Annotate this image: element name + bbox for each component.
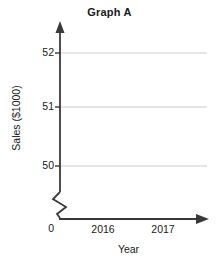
gridlines (60, 53, 207, 166)
y-tick-52: 52 (24, 46, 54, 60)
axis-break-icon (53, 192, 66, 218)
x-tick-2016: 2016 (80, 223, 126, 235)
graph-figure: Graph A 52 51 (0, 0, 219, 270)
x-tick-2017: 2017 (140, 223, 186, 235)
x-axis-title: Year (60, 243, 197, 255)
arrow-up-icon (56, 21, 65, 33)
y-tick-label: 51 (28, 100, 54, 112)
origin-zero-label: 0 (40, 222, 54, 234)
y-tick-label: 50 (28, 159, 54, 171)
y-axis-title: Sales ($1000) (10, 73, 22, 163)
y-tick-50: 50 (24, 159, 54, 173)
y-tick-51: 51 (24, 100, 54, 114)
y-tick-label: 52 (28, 46, 54, 58)
arrow-right-icon (196, 214, 209, 224)
y-axis (53, 21, 66, 218)
